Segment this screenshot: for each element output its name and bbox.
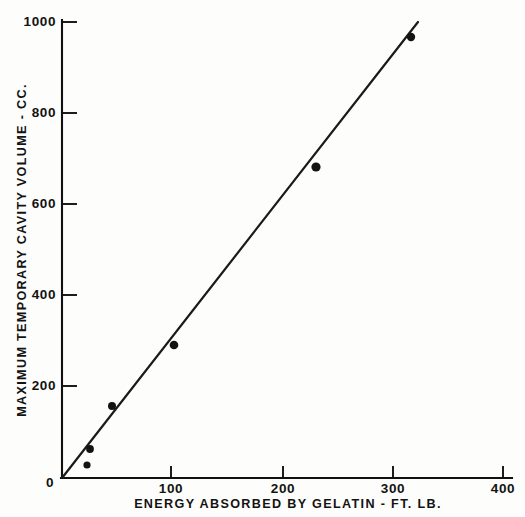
y-tick-label-800: 800 (32, 105, 56, 120)
chart-figure: 1000 800 600 400 200 0 100 200 300 400 E… (0, 0, 525, 517)
linear-fit-line (62, 22, 418, 478)
y-tick-marks (62, 22, 77, 386)
data-point (407, 33, 415, 41)
data-point (311, 162, 320, 171)
axes-group (61, 20, 512, 478)
data-point (108, 402, 116, 410)
data-point (86, 445, 94, 453)
x-tick-label-200: 200 (271, 481, 295, 496)
y-tick-label-600: 600 (32, 196, 56, 211)
data-point (170, 341, 179, 350)
y-axis-title: MAXIMUM TEMPORARY CAVITY VOLUME - CC. (15, 83, 29, 417)
x-tick-labels: 100 200 300 400 (159, 481, 515, 496)
x-tick-marks (171, 466, 503, 478)
x-tick-label-400: 400 (491, 481, 515, 496)
x-tick-label-300: 300 (381, 481, 405, 496)
y-tick-label-400: 400 (32, 287, 56, 302)
data-point (83, 461, 90, 468)
scatter-plot-canvas: 1000 800 600 400 200 0 100 200 300 400 E… (0, 0, 525, 517)
y-tick-label-1000: 1000 (24, 14, 56, 29)
y-tick-label-200: 200 (32, 378, 56, 393)
x-axis-title: ENERGY ABSORBED BY GELATIN - FT. LB. (134, 497, 442, 511)
data-points-group (83, 33, 415, 469)
x-tick-label-100: 100 (159, 481, 183, 496)
origin-tick-label: 0 (46, 475, 54, 490)
